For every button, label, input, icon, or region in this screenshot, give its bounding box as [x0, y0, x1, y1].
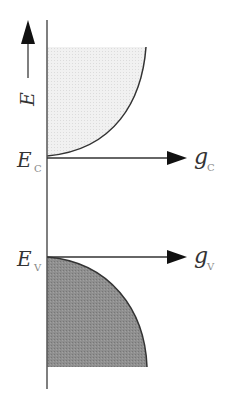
gc-arrow-head-icon: [167, 151, 187, 165]
band-diagram: E E C E V g C g V: [0, 0, 232, 395]
ev-subscript: V: [33, 262, 42, 273]
gv-label: g: [194, 243, 208, 268]
gv-arrow-head-icon: [167, 250, 187, 264]
ec-subscript: C: [34, 163, 42, 174]
gv-subscript: V: [206, 261, 215, 272]
energy-arrow-head-icon: [21, 20, 35, 44]
energy-axis-label: E: [16, 92, 38, 107]
gc-label: g: [194, 144, 208, 169]
ev-label: E: [16, 247, 32, 271]
ec-label: E: [16, 148, 32, 172]
gc-subscript: C: [207, 162, 215, 173]
